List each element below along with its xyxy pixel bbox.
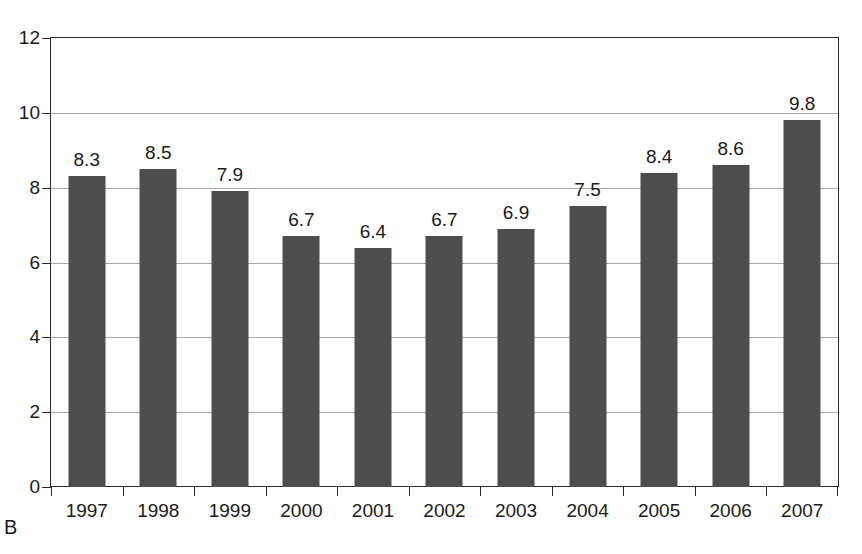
x-axis-tick-mark (123, 487, 124, 496)
bar-value-label: 8.4 (646, 147, 672, 166)
x-axis-tick-label: 1998 (137, 501, 179, 521)
bar (784, 120, 821, 487)
bar-value-label: 7.9 (217, 165, 243, 184)
x-axis-tick-mark (695, 487, 696, 496)
y-axis-tick-mark (42, 337, 51, 338)
bar-slot: 6.7 (266, 38, 338, 487)
y-axis-tick-label: 12 (0, 28, 40, 47)
y-axis-tick-label: 4 (0, 327, 40, 346)
y-axis-tick-mark (42, 113, 51, 114)
bar (569, 206, 606, 487)
bar-slot: 7.5 (552, 38, 624, 487)
bar-slot: 7.9 (194, 38, 266, 487)
y-axis-tick-label: 10 (0, 103, 40, 122)
bar (211, 191, 248, 487)
x-axis-tick-label: 1997 (66, 501, 108, 521)
y-axis-tick-label: 8 (0, 178, 40, 197)
y-axis-tick-mark (42, 188, 51, 189)
bar-value-label: 7.5 (574, 180, 600, 199)
bar-value-label: 8.3 (74, 150, 100, 169)
y-axis-tick-label: 0 (0, 477, 40, 496)
bars-group: 8.38.57.96.76.46.76.97.58.48.69.8 (51, 38, 838, 487)
bar-value-label: 6.9 (503, 203, 529, 222)
bar (712, 165, 749, 487)
x-axis-tick-label: 2004 (566, 501, 608, 521)
x-axis-tick-mark (766, 487, 767, 496)
y-axis-tick-label: 6 (0, 253, 40, 272)
y-axis-tick-mark (42, 487, 51, 488)
bar-slot: 8.4 (623, 38, 695, 487)
x-axis-tick-label: 2005 (638, 501, 680, 521)
x-axis-tick-label: 1999 (209, 501, 251, 521)
y-axis-tick-mark (42, 38, 51, 39)
bar-value-label: 6.7 (288, 210, 314, 229)
bar (68, 176, 105, 487)
x-axis-tick-mark (623, 487, 624, 496)
bar-slot: 8.5 (123, 38, 195, 487)
bar-value-label: 6.7 (431, 210, 457, 229)
bar-slot: 6.7 (409, 38, 481, 487)
x-axis-tick-mark (837, 487, 838, 496)
bar-chart-figure: 024681012 8.38.57.96.76.46.76.97.58.48.6… (0, 0, 862, 554)
x-axis-tick-mark (409, 487, 410, 496)
bar (426, 236, 463, 487)
bar-slot: 8.3 (51, 38, 123, 487)
bar-slot: 9.8 (766, 38, 838, 487)
x-axis-tick-mark (51, 487, 52, 496)
bar-value-label: 8.5 (145, 143, 171, 162)
bar-slot: 6.9 (480, 38, 552, 487)
bar-slot: 6.4 (337, 38, 409, 487)
bar-value-label: 6.4 (360, 222, 386, 241)
bar (283, 236, 320, 487)
panel-label: B (4, 516, 17, 538)
bar-value-label: 9.8 (789, 94, 815, 113)
x-axis-tick-mark (266, 487, 267, 496)
x-axis-tick-mark (337, 487, 338, 496)
x-axis-tick-label: 2003 (495, 501, 537, 521)
bar (641, 173, 678, 487)
x-axis-tick-mark (480, 487, 481, 496)
bar-slot: 8.6 (695, 38, 767, 487)
x-axis-tick-label: 2006 (710, 501, 752, 521)
x-axis-tick-mark (194, 487, 195, 496)
bar (140, 169, 177, 487)
y-axis-tick-mark (42, 263, 51, 264)
y-axis-tick-mark (42, 412, 51, 413)
x-axis: 1997199819992000200120022003200420052006… (51, 487, 838, 547)
y-axis-tick-label: 2 (0, 402, 40, 421)
y-axis: 024681012 (0, 0, 44, 554)
x-axis-tick-label: 2000 (280, 501, 322, 521)
bar-value-label: 8.6 (717, 139, 743, 158)
bar (354, 248, 391, 487)
x-axis-tick-label: 2007 (781, 501, 823, 521)
bar (498, 229, 535, 487)
x-axis-tick-label: 2001 (352, 501, 394, 521)
x-axis-tick-mark (552, 487, 553, 496)
x-axis-tick-label: 2002 (423, 501, 465, 521)
